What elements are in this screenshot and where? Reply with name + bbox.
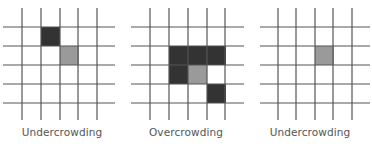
panel-undercrowding-left: Undercrowding: [0, 0, 124, 147]
panel-undercrowding-right: Undercrowding: [248, 0, 372, 147]
panel-overcrowding: Overcrowding: [124, 0, 248, 147]
caption-undercrowding-left: Undercrowding: [0, 126, 124, 138]
caption-undercrowding-right: Undercrowding: [248, 126, 372, 138]
caption-overcrowding: Overcrowding: [124, 126, 248, 138]
